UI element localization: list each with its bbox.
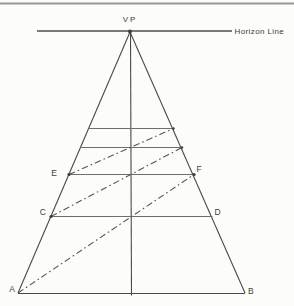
point-dot-edge-2 xyxy=(181,146,183,148)
scanned-diagram-page: VPHorizon LineEFCDAB xyxy=(0,0,294,306)
point-dot-c xyxy=(49,215,52,218)
label-c: C xyxy=(40,207,46,217)
diagonal-c-to-edge xyxy=(51,148,182,217)
triangle-right-edge xyxy=(130,32,245,293)
vanishing-point-dot xyxy=(128,30,132,34)
point-dot-edge-1 xyxy=(172,127,174,129)
center-vertical-line xyxy=(131,32,132,296)
label-b: B xyxy=(248,286,254,296)
label-horizon: Horizon Line xyxy=(235,27,285,36)
diagonal-e-to-edge xyxy=(69,129,174,175)
label-vp: VP xyxy=(123,15,138,24)
triangle-left-edge xyxy=(18,32,130,293)
label-e: E xyxy=(51,168,57,178)
perspective-diagram: VPHorizon LineEFCDAB xyxy=(0,0,294,306)
label-a: A xyxy=(9,284,15,294)
label-f: F xyxy=(197,164,202,174)
diagonal-a-to-f xyxy=(18,175,194,294)
point-dot-f xyxy=(192,173,195,176)
label-d: D xyxy=(215,207,221,217)
point-dot-e xyxy=(67,173,70,176)
